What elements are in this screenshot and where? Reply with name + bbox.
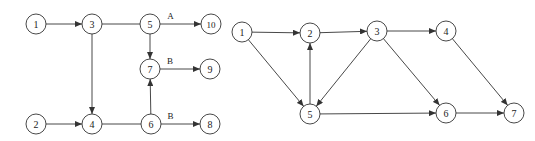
node-label: 1: [240, 27, 245, 38]
node-left-6: 6: [141, 114, 161, 134]
node-label: 3: [90, 19, 95, 30]
edge-label: B: [167, 111, 173, 121]
node-label: 3: [375, 26, 380, 37]
node-label: 9: [208, 64, 213, 75]
node-label: 2: [34, 119, 39, 130]
node-left-5: 5: [140, 14, 160, 34]
node-left-4: 4: [82, 114, 102, 134]
node-label: 5: [308, 109, 313, 120]
node-left-8: 8: [200, 114, 220, 134]
nodes-layer: 135107924681234567: [26, 14, 524, 134]
node-label: 1: [34, 19, 39, 30]
node-label: 6: [149, 119, 154, 130]
edge-label: B: [167, 56, 173, 66]
edge-right-5-to-6: [320, 113, 436, 114]
node-right-5: 5: [300, 104, 320, 124]
node-label: 4: [90, 119, 95, 130]
node-left-9: 9: [200, 59, 220, 79]
node-right-3: 3: [367, 21, 387, 41]
node-label: 6: [444, 108, 449, 119]
node-label: 5: [148, 19, 153, 30]
edge-right-1-to-2: [252, 32, 300, 33]
node-right-1: 1: [232, 22, 252, 42]
node-right-2: 2: [300, 23, 320, 43]
network-diagrams: ABB 135107924681234567: [0, 0, 535, 141]
edge-left-6-to-7: [150, 79, 151, 114]
node-label: 2: [308, 28, 313, 39]
node-left-7: 7: [140, 59, 160, 79]
diagram-canvas: ABB 135107924681234567: [0, 0, 535, 141]
node-left-1: 1: [26, 14, 46, 34]
edge-right-2-to-3: [320, 31, 367, 32]
node-left-2: 2: [26, 114, 46, 134]
edge-right-3-to-5: [316, 39, 370, 106]
edge-right-3-to-6: [383, 39, 439, 106]
node-label: 4: [444, 26, 449, 37]
node-right-6: 6: [436, 103, 456, 123]
edge-label: A: [167, 11, 174, 21]
node-left-3: 3: [82, 14, 102, 34]
node-right-4: 4: [436, 21, 456, 41]
node-left-10: 10: [201, 14, 221, 34]
node-label: 7: [512, 108, 517, 119]
node-label: 10: [207, 20, 217, 30]
node-label: 7: [148, 64, 153, 75]
node-right-7: 7: [504, 103, 524, 123]
edge-right-1-to-5: [248, 40, 303, 107]
edge-right-4-to-7: [452, 39, 507, 106]
node-label: 8: [208, 119, 213, 130]
